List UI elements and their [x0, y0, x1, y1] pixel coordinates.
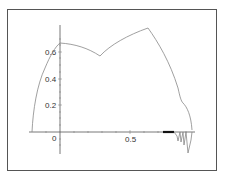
x-tick-label-0.5: 0.5: [125, 135, 137, 144]
y-tick-label-0.2: 0.2: [45, 101, 57, 110]
oscillation-curve: [174, 132, 192, 153]
y-tick-label-0.4: 0.4: [45, 75, 57, 84]
chart-canvas: 0.6 0.4 0.2 0 0.5: [0, 0, 226, 179]
x-tick-label-0: 0: [52, 134, 57, 143]
